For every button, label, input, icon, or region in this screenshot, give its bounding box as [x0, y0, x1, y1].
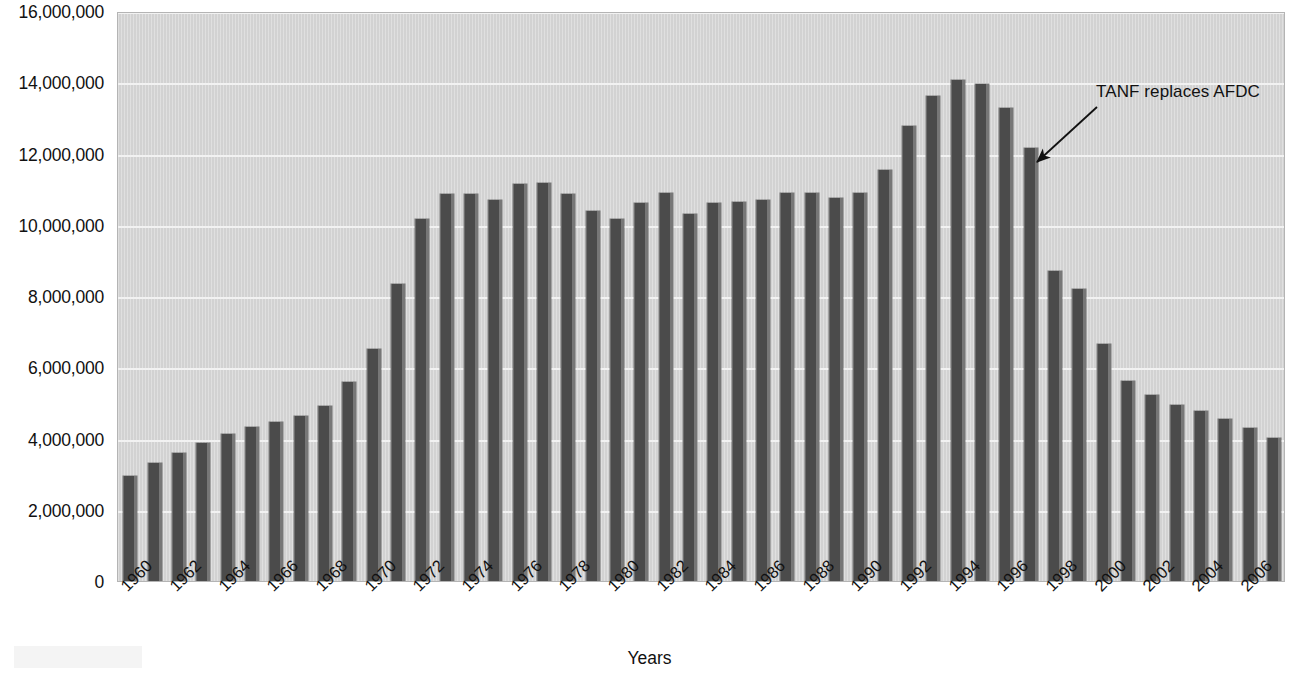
bar: [1097, 344, 1111, 581]
bar: [634, 203, 648, 581]
bar: [707, 203, 721, 581]
bar: [464, 194, 478, 581]
bar: [537, 183, 551, 581]
y-axis-tick-label: 16,000,000: [18, 2, 104, 23]
bar: [732, 202, 746, 581]
bar: [269, 422, 283, 581]
y-axis-tick-label: 4,000,000: [28, 429, 104, 450]
y-axis-tick-label: 6,000,000: [28, 358, 104, 379]
bar: [1267, 438, 1281, 581]
bar: [805, 193, 819, 581]
bar: [294, 416, 308, 581]
bar: [659, 193, 673, 581]
bar: [1048, 271, 1062, 581]
y-axis-tick-label: 10,000,000: [18, 215, 104, 236]
bar: [756, 200, 770, 581]
bar: [196, 443, 210, 581]
bar: [926, 96, 940, 581]
bar: [829, 198, 843, 581]
bar: [440, 194, 454, 581]
bar: [1145, 395, 1159, 581]
bar: [780, 193, 794, 581]
bar: [488, 200, 502, 581]
y-axis-tick-label: 8,000,000: [28, 287, 104, 308]
y-axis: 02,000,0004,000,0006,000,0008,000,00010,…: [0, 0, 112, 600]
bar: [975, 84, 989, 581]
bar: [853, 193, 867, 581]
bar: [513, 184, 527, 581]
bar: [586, 211, 600, 582]
bar: [1194, 411, 1208, 581]
bar: [683, 214, 697, 581]
bar: [391, 284, 405, 581]
bar: [610, 219, 624, 581]
bar-chart: 02,000,0004,000,0006,000,0008,000,00010,…: [0, 0, 1299, 676]
bar: [951, 80, 965, 581]
bar: [415, 219, 429, 581]
bar: [902, 126, 916, 581]
bar: [878, 170, 892, 581]
bar: [999, 108, 1013, 581]
x-axis-title: Years: [0, 648, 1299, 669]
corner-placeholder-box: [14, 646, 142, 668]
bar: [1170, 405, 1184, 581]
bar: [172, 453, 186, 581]
bar: [221, 434, 235, 581]
bar: [561, 194, 575, 581]
bar: [1121, 381, 1135, 581]
bar: [1218, 419, 1232, 581]
y-axis-tick-label: 2,000,000: [28, 500, 104, 521]
annotation-tanf-replaces-afdc: TANF replaces AFDC: [1096, 82, 1260, 102]
x-axis: 1960196219641966196819701972197419761978…: [0, 582, 1299, 652]
bar: [367, 349, 381, 581]
bar: [1243, 428, 1257, 581]
bar: [1072, 289, 1086, 581]
y-axis-tick-label: 12,000,000: [18, 144, 104, 165]
bar: [318, 406, 332, 581]
bar: [1024, 148, 1038, 581]
y-axis-tick-label: 14,000,000: [18, 73, 104, 94]
bar: [245, 427, 259, 581]
bar: [342, 382, 356, 582]
